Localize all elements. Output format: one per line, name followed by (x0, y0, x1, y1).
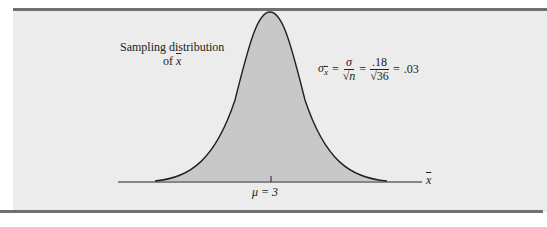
formula-result: .03 (404, 62, 419, 77)
xbar-subscript: x (324, 68, 328, 78)
fraction-values: .18√36 (370, 56, 389, 83)
xbar-symbol: x (176, 54, 181, 68)
equals-2: = (359, 62, 366, 77)
equals-3: = (393, 62, 400, 77)
frac2-denominator: √36 (370, 70, 389, 83)
x-axis-label: x (426, 173, 431, 188)
sigma-xbar: σx (318, 61, 328, 77)
curve-fill (155, 12, 387, 181)
curve-label-line1: Sampling distribution (120, 40, 224, 54)
curve-label: Sampling distribution of x (120, 40, 224, 68)
frac1-denominator: √n (343, 70, 356, 83)
frac2-numerator: .18 (370, 56, 389, 70)
standard-error-formula: σx = σ√n = .18√36 = .03 (318, 56, 419, 83)
equals-1: = (332, 62, 339, 77)
curve-label-prefix: of (163, 54, 176, 68)
fraction-sigma-over-root-n: σ√n (343, 56, 356, 83)
curve-label-line2: of x (120, 54, 224, 68)
mean-label: μ = 3 (252, 185, 278, 200)
frac1-numerator: σ (344, 56, 354, 70)
